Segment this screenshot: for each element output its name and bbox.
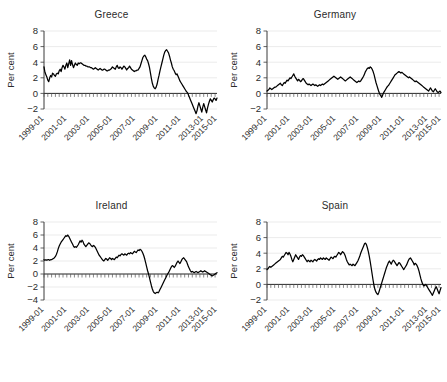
y-axis-label: Per cent xyxy=(5,243,16,279)
chart-svg-greece: −202468Per cent1999-012001-012003-012005… xyxy=(0,0,223,191)
y-tick-label: 2 xyxy=(33,72,38,83)
y-tick-label: 2 xyxy=(33,255,38,266)
y-tick-label: 8 xyxy=(33,25,38,36)
y-tick-label: 8 xyxy=(256,216,261,227)
panel-germany: Germany −202468Per cent1999-012001-01200… xyxy=(223,0,447,191)
data-series-line xyxy=(267,67,441,97)
y-tick-label: 6 xyxy=(256,232,261,243)
chart-svg-ireland: −4−202468Per cent1999-012001-012003-0120… xyxy=(0,191,223,382)
y-tick-label: 2 xyxy=(256,72,261,83)
data-series-line xyxy=(44,50,217,114)
y-tick-label: 4 xyxy=(256,248,261,259)
y-tick-label: −2 xyxy=(250,294,261,305)
x-tick-label: 2009-01 xyxy=(130,113,159,142)
y-tick-label: 0 xyxy=(256,279,261,290)
panel-greece: Greece −202468Per cent1999-012001-012003… xyxy=(0,0,223,191)
x-tick-label: 2009-01 xyxy=(354,113,383,142)
y-axis-label: Per cent xyxy=(228,52,239,88)
y-tick-label: 4 xyxy=(33,57,38,68)
panel-ireland: Ireland −4−202468Per cent1999-012001-012… xyxy=(0,191,223,382)
y-tick-label: 2 xyxy=(256,263,261,274)
data-series-line xyxy=(44,235,217,294)
y-tick-label: −2 xyxy=(27,281,38,292)
chart-svg-spain: −202468Per cent1999-012001-012003-012005… xyxy=(223,191,447,382)
y-tick-label: 8 xyxy=(256,25,261,36)
x-tick-label: 2009-01 xyxy=(130,304,159,333)
y-tick-label: −2 xyxy=(27,103,38,114)
y-tick-label: 6 xyxy=(33,229,38,240)
y-tick-label: 4 xyxy=(33,242,38,253)
y-tick-label: −2 xyxy=(250,103,261,114)
chart-svg-germany: −202468Per cent1999-012001-012003-012005… xyxy=(223,0,447,191)
y-tick-label: 6 xyxy=(256,41,261,52)
y-tick-label: 4 xyxy=(256,57,261,68)
y-axis-label: Per cent xyxy=(228,243,239,279)
y-tick-label: 8 xyxy=(33,216,38,227)
y-tick-label: 6 xyxy=(33,41,38,52)
y-axis-label: Per cent xyxy=(5,52,16,88)
y-tick-label: 0 xyxy=(33,88,38,99)
y-tick-label: 0 xyxy=(256,88,261,99)
y-tick-label: 0 xyxy=(33,268,38,279)
chart-grid: Greece −202468Per cent1999-012001-012003… xyxy=(0,0,447,382)
y-tick-label: −4 xyxy=(27,294,38,305)
panel-spain: Spain −202468Per cent1999-012001-012003-… xyxy=(223,191,447,382)
x-tick-label: 2009-01 xyxy=(354,304,383,333)
